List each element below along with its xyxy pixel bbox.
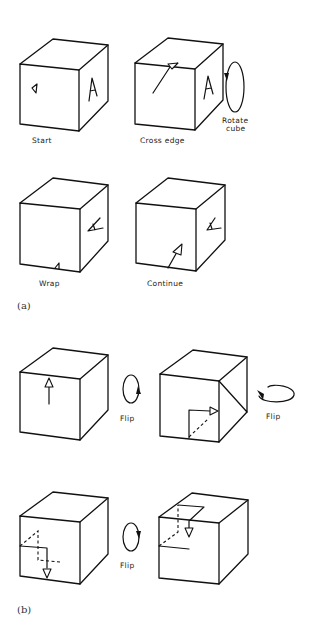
flip-vertical-arrow-icon bbox=[123, 523, 141, 551]
cube-diagram: Start Cross edge Rotate cube Wrap bbox=[0, 0, 315, 632]
triangle-marker bbox=[32, 84, 37, 93]
continue-arrow bbox=[168, 252, 177, 268]
cube-start bbox=[20, 39, 108, 131]
path-solid bbox=[189, 410, 210, 438]
cube-b1 bbox=[20, 348, 108, 440]
flip-vertical-arrow-icon bbox=[123, 375, 141, 403]
note-cube: cube bbox=[226, 124, 246, 133]
caption-wrap: Wrap bbox=[39, 279, 60, 288]
cube-wrap bbox=[20, 178, 108, 272]
path-hidden bbox=[159, 505, 178, 546]
wrap-marker bbox=[55, 263, 59, 269]
flip-label-2: Flip bbox=[266, 412, 280, 421]
cube-b2 bbox=[160, 350, 247, 442]
flip-label-1: Flip bbox=[120, 414, 134, 423]
path-hidden bbox=[189, 418, 209, 437]
panel-label-b: (b) bbox=[17, 604, 31, 615]
letter-a-glyph bbox=[89, 78, 97, 101]
letter-a-rotated-glyph bbox=[88, 218, 103, 231]
cube-b3 bbox=[20, 492, 108, 584]
cube-b4 bbox=[159, 493, 248, 584]
caption-cross-edge: Cross edge bbox=[140, 136, 185, 145]
path-solid bbox=[20, 546, 47, 568]
cube-continue bbox=[136, 178, 225, 271]
rotate-cube-arrow-icon bbox=[224, 62, 244, 112]
cross-edge-arrow bbox=[153, 67, 170, 93]
flip-horizontal-arrow-icon bbox=[257, 385, 294, 402]
panel-label-a: (a) bbox=[17, 300, 31, 311]
flip-label-3: Flip bbox=[120, 561, 134, 570]
path-solid bbox=[159, 546, 189, 549]
letter-a-glyph bbox=[204, 76, 213, 99]
letter-a-rotated-glyph bbox=[207, 218, 221, 230]
cube-cross-edge bbox=[135, 38, 223, 130]
caption-continue: Continue bbox=[147, 279, 183, 288]
caption-start: Start bbox=[32, 136, 52, 145]
